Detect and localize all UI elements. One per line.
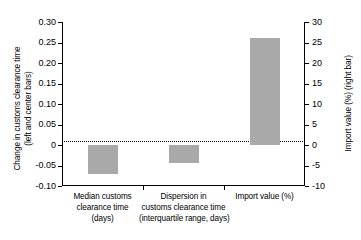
category-label: Median customsclearance time(days): [58, 191, 147, 224]
right-tick-label: -5: [312, 161, 320, 170]
left-tick-label: 0.05: [38, 120, 56, 129]
category-label-line: Median customs: [58, 191, 147, 202]
left-tick-mark: [58, 22, 62, 23]
right-tick-mark: [305, 63, 309, 64]
left-tick-mark: [58, 166, 62, 167]
left-tick-mark: [58, 186, 62, 187]
category-label-line: customs clearance time: [139, 202, 228, 213]
right-tick-label: -10: [312, 182, 325, 191]
right-tick-label: 10: [312, 100, 322, 109]
right-tick-label: 30: [312, 18, 322, 27]
left-tick-label: 0.30: [38, 18, 56, 27]
right-tick-mark: [305, 186, 309, 187]
left-axis-title-line-2: (left and center bars): [22, 19, 33, 199]
right-tick-mark: [305, 22, 309, 23]
left-tick-mark: [58, 145, 62, 146]
left-axis-title: Change in customs clearance time (left a…: [12, 19, 33, 199]
right-tick-mark: [305, 166, 309, 167]
right-tick-label: 20: [312, 59, 322, 68]
category-label-line: clearance time: [58, 202, 147, 213]
category-label-line: Dispersion in: [139, 191, 228, 202]
right-tick-mark: [305, 104, 309, 105]
right-tick-mark: [305, 125, 309, 126]
category-label-group: Median customsclearance time(days)Disper…: [62, 191, 305, 236]
plot-area: 0.300.250.200.150.100.050-0.05-0.10 3025…: [62, 22, 305, 186]
left-axis-line: [62, 22, 63, 186]
right-tick-label: 15: [312, 79, 322, 88]
left-tick-label: -0.05: [35, 161, 56, 170]
left-tick-mark: [58, 84, 62, 85]
left-tick-label: 0.10: [38, 100, 56, 109]
x-tick-mark: [224, 186, 225, 190]
left-tick-mark: [58, 104, 62, 105]
chart-figure: Change in customs clearance time (left a…: [0, 0, 361, 240]
right-tick-mark: [305, 84, 309, 85]
category-label-line: (days): [58, 213, 147, 224]
left-axis-title-line-1: Change in customs clearance time: [12, 19, 23, 199]
left-tick-mark: [58, 125, 62, 126]
left-tick-mark: [58, 43, 62, 44]
right-tick-mark: [305, 43, 309, 44]
category-label-line: Import value (%): [220, 191, 309, 202]
left-tick-label: -0.10: [35, 182, 56, 191]
category-label-line: (interquartile range, days): [139, 213, 228, 224]
bottom-axis-line: [62, 185, 305, 186]
x-tick-mark: [143, 186, 144, 190]
category-label: Dispersion incustoms clearance time(inte…: [139, 191, 228, 224]
right-tick-label: 25: [312, 38, 322, 47]
right-tick-mark: [305, 145, 309, 146]
left-tick-mark: [58, 63, 62, 64]
bar: [88, 145, 118, 174]
left-tick-label: 0.20: [38, 59, 56, 68]
left-tick-label: 0: [51, 141, 56, 150]
right-axis-title: Import value (%) (right bar): [343, 13, 354, 193]
right-tick-label: 5: [312, 120, 317, 129]
left-tick-label: 0.15: [38, 79, 56, 88]
left-tick-label: 0.25: [38, 38, 56, 47]
bar: [250, 38, 280, 145]
category-label: Import value (%): [220, 191, 309, 202]
right-tick-label: 0: [312, 141, 317, 150]
bar: [169, 145, 199, 163]
